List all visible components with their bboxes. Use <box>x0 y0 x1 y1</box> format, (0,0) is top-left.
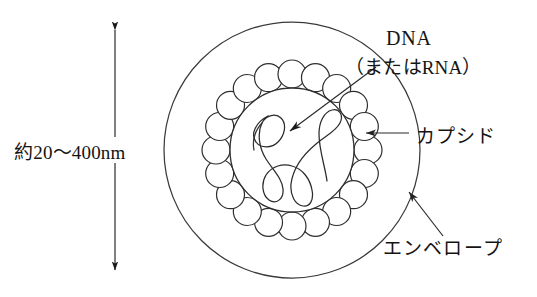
capsid-label: カプシド <box>416 121 497 148</box>
envelope-leader-line <box>409 192 443 236</box>
capsomere <box>350 113 378 141</box>
size-label: 約20〜400nm <box>14 137 126 164</box>
envelope-label: エンベロープ <box>383 233 503 260</box>
dna-label: DNA <box>386 27 432 50</box>
dna-alternative-label: （またはRNA） <box>345 52 482 79</box>
virus-structure-diagram: 約20〜400nm DNA （またはRNA） カプシド エンベロープ <box>0 0 537 297</box>
